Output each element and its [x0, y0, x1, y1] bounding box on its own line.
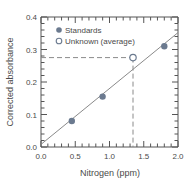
- y-tick-label-3: 0.3: [26, 46, 38, 55]
- legend-label-standards: Standards: [65, 26, 101, 35]
- data-point-standard: [69, 118, 75, 124]
- legend-label-unknown: Unknown (average): [65, 37, 135, 46]
- y-tick-label-4: 0.4: [26, 13, 38, 22]
- x-tick-label-4: 2.0: [172, 152, 184, 161]
- y-tick-label-2: 0.2: [26, 78, 38, 87]
- x-tick-label-0: 0.0: [35, 152, 47, 161]
- data-point-standard: [161, 43, 167, 49]
- x-tick-label-3: 1.5: [138, 152, 150, 161]
- legend-marker-standards-icon: [56, 27, 62, 33]
- y-axis-label: Corrected absorbance: [5, 37, 15, 126]
- x-tick-label-1: 0.5: [70, 152, 82, 161]
- y-tick-label-0: 0.0: [26, 143, 38, 152]
- legend-marker-unknown-icon: [56, 38, 62, 44]
- data-point-unknown: [130, 54, 136, 60]
- x-axis-label: Nitrogen (ppm): [80, 168, 140, 178]
- x-tick-label-2: 1.0: [104, 152, 116, 161]
- y-tick-label-1: 0.1: [26, 111, 38, 120]
- data-point-standard: [99, 93, 105, 99]
- chart-figure: 0.0 0.1 0.2 0.3 0.4 0.0 0.5 1.0 1.5 2.0 …: [0, 0, 193, 186]
